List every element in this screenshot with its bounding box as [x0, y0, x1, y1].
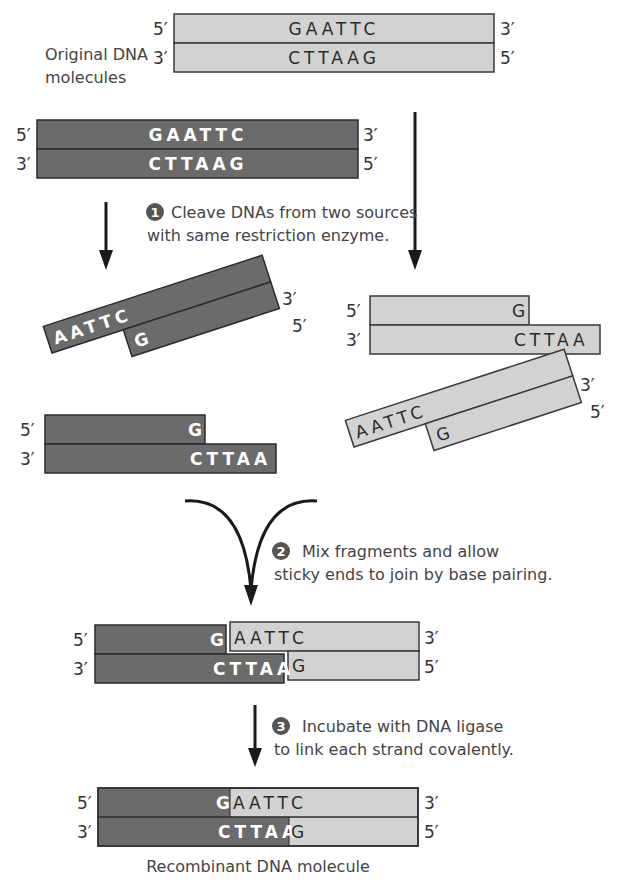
dark-flat-fragment: G CTTAA 5′ 3′	[20, 415, 276, 473]
light-flat-fragment: G CTTAA 5′ 3′	[346, 296, 600, 354]
end-label-3: 3′	[424, 793, 439, 813]
end-label-3: 3′	[282, 289, 297, 309]
original-label-line2: molecules	[45, 68, 126, 87]
dark-top-strand	[98, 788, 230, 817]
end-label-3: 3′	[20, 449, 35, 469]
dark-top-sequence: GAATTC	[148, 125, 247, 145]
end-label-3: 3′	[580, 375, 595, 395]
annealed-molecule: G AATTC CTTAA G 5′ 3′ 3′ 5′	[73, 622, 439, 683]
bottom-sequence: CTTAA	[190, 449, 271, 469]
end-label-3: 3′	[77, 822, 92, 842]
recombinant-molecule: G AATTC CTTAA G 5′ 3′ 3′ 5′	[77, 788, 439, 846]
end-label-5: 5′	[292, 316, 307, 336]
step-1: 1 Cleave DNAs from two sources with same…	[146, 203, 417, 245]
light-bottom-sequence: G	[292, 656, 309, 676]
end-label-5: 5′	[363, 154, 378, 174]
step-number: 3	[276, 719, 285, 734]
light-top-sequence: AATTC	[234, 628, 308, 648]
dark-bottom-sequence: CTTAA	[218, 822, 299, 842]
end-label-3: 3′	[424, 628, 439, 648]
end-label-5: 5′	[77, 793, 92, 813]
light-top-sequence: AATTC	[233, 793, 307, 813]
light-top-strand	[370, 296, 529, 325]
converging-arrow-icon	[185, 501, 317, 606]
step-text-line1: Mix fragments and allow	[302, 542, 499, 561]
dark-top-sequence: G	[216, 793, 234, 813]
light-bottom-sequence: CTTAAG	[288, 48, 380, 68]
dark-top-strand	[95, 625, 226, 654]
end-label-3: 3′	[16, 154, 31, 174]
dark-bottom-sequence: CTTAA	[213, 659, 294, 679]
arrow-down-icon	[99, 202, 113, 270]
end-label-5: 5′	[346, 301, 361, 321]
end-label-3: 3′	[346, 330, 361, 350]
end-label-3: 3′	[73, 659, 88, 679]
step-3: 3 Incubate with DNA ligase to link each …	[272, 717, 514, 759]
dark-tilted-fragment: AATTC G	[43, 255, 279, 379]
step-text-line1: Incubate with DNA ligase	[302, 717, 503, 736]
dark-top-sequence: G	[210, 630, 228, 650]
end-label-3: 3′	[500, 19, 515, 39]
original-light-molecule: GAATTC CTTAAG 5′ 3′ 3′ 5′	[153, 14, 515, 72]
top-sequence: G	[512, 301, 529, 321]
step-text-line2: with same restriction enzyme.	[147, 226, 389, 245]
dark-bottom-sequence: CTTAAG	[148, 154, 247, 174]
end-label-5: 5′	[20, 420, 35, 440]
dark-top-strand	[45, 415, 205, 444]
light-tilted-fragment: AATTC G	[345, 349, 581, 473]
end-label-5: 5′	[73, 630, 88, 650]
end-label-3: 3′	[363, 125, 378, 145]
bottom-sequence: CTTAA	[514, 330, 589, 350]
step-text-line1: Cleave DNAs from two sources	[171, 203, 417, 222]
recombinant-dna-diagram: GAATTC CTTAAG 5′ 3′ 3′ 5′ Original DNA m…	[0, 0, 638, 896]
step-number: 2	[276, 544, 285, 559]
light-top-sequence: GAATTC	[289, 19, 380, 39]
arrow-down-icon	[248, 705, 262, 767]
top-sequence: G	[188, 420, 206, 440]
end-label-5: 5′	[590, 402, 605, 422]
light-bottom-sequence: G	[291, 822, 308, 842]
step-2: 2 Mix fragments and allow sticky ends to…	[272, 542, 552, 584]
end-label-5: 5′	[153, 19, 168, 39]
recombinant-caption: Recombinant DNA molecule	[146, 857, 370, 876]
arrow-down-icon	[408, 112, 422, 270]
end-label-5: 5′	[16, 125, 31, 145]
end-label-5: 5′	[424, 822, 439, 842]
original-label-line1: Original DNA	[45, 45, 148, 64]
original-dark-molecule: GAATTC CTTAAG 5′ 3′ 3′ 5′	[16, 120, 378, 178]
end-label-5: 5′	[424, 657, 439, 677]
end-label-5: 5′	[500, 48, 515, 68]
step-number: 1	[150, 205, 159, 220]
step-text-line2: to link each strand covalently.	[274, 740, 514, 759]
step-text-line2: sticky ends to join by base pairing.	[274, 565, 552, 584]
end-label-3: 3′	[153, 48, 168, 68]
